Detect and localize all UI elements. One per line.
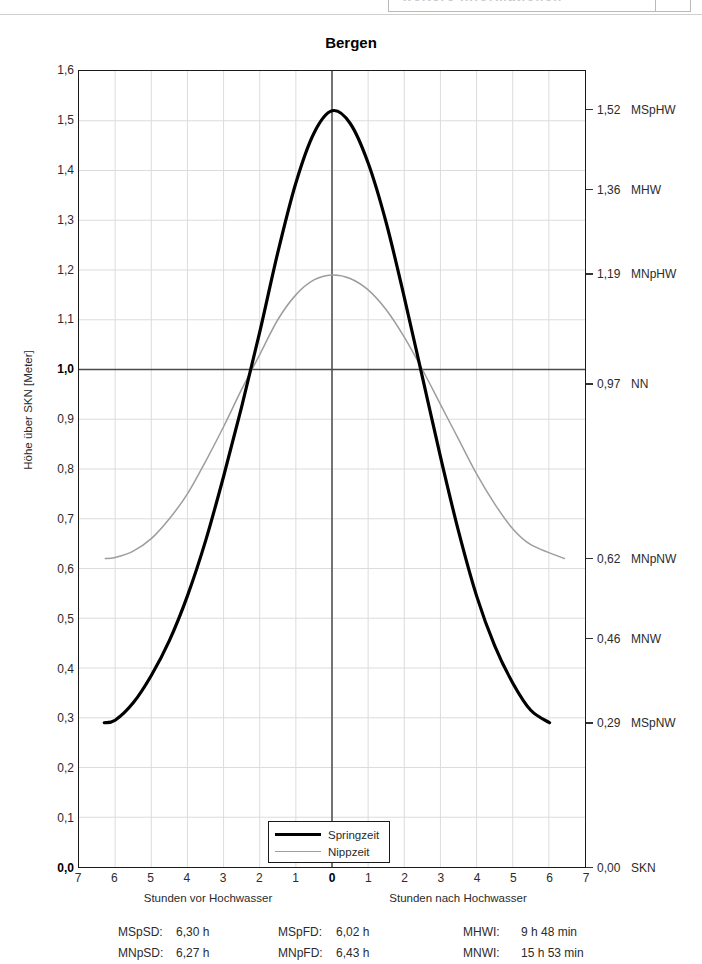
y-tick-0-2: 0,2 [30, 761, 74, 775]
legend-item-springzeit[interactable]: Springzeit [275, 827, 383, 842]
stat-value: 6,43 h [336, 946, 369, 960]
y-tick-0-1: 0,1 [30, 811, 74, 825]
y-tick-1-5: 1,5 [30, 113, 74, 127]
x-tick-7: 7 [576, 871, 596, 885]
reference-tick-icon [586, 109, 593, 110]
reference-value: 0,29 [597, 716, 620, 730]
stat-key: MNpSD: [118, 946, 176, 960]
y-tick-0-7: 0,7 [30, 512, 74, 526]
legend-item-nippzeit[interactable]: Nippzeit [275, 844, 383, 859]
chart-title: Bergen [0, 34, 702, 51]
stat-key: MNWI: [463, 946, 521, 960]
reference-tick-icon [586, 867, 593, 868]
header-fragment-label: weitere Informationen [402, 0, 562, 4]
tide-curves [79, 71, 585, 867]
x-tick-6: 6 [540, 871, 560, 885]
x-tick-3: 3 [431, 871, 451, 885]
reference-value: 0,46 [597, 632, 620, 646]
stats-row: MNpSD:6,27 hMNpFD:6,43 hMNWI:15 h 53 min [78, 946, 638, 964]
x-tick-minus7: 7 [68, 871, 88, 885]
stat-mspsd: MSpSD:6,30 h [118, 925, 209, 939]
reference-tick-icon [586, 383, 593, 384]
reference-name: SKN [631, 861, 656, 875]
y-tick-0-8: 0,8 [30, 462, 74, 476]
page-header-fragment: weitere Informationen [0, 0, 702, 14]
x-tick-2: 2 [395, 871, 415, 885]
stat-mspfd: MSpFD:6,02 h [278, 925, 369, 939]
x-tick-minus1: 1 [286, 871, 306, 885]
x-caption-after: Stunden nach Hochwasser [389, 892, 526, 904]
reference-tick-icon [586, 722, 593, 723]
reference-name: MSpNW [631, 716, 676, 730]
x-tick-4: 4 [467, 871, 487, 885]
y-tick-0-3: 0,3 [30, 711, 74, 725]
stat-mhwi: MHWI:9 h 48 min [463, 925, 577, 939]
x-tick-0: 0 [322, 871, 342, 885]
x-tick-5: 5 [503, 871, 523, 885]
reference-name: MNpNW [631, 552, 676, 566]
reference-name: MNpHW [631, 267, 676, 281]
reference-tick-icon [586, 273, 593, 274]
stat-key: MHWI: [463, 925, 521, 939]
stat-value: 9 h 48 min [521, 925, 577, 939]
x-axis-tick-labels: 765432101234567 [78, 871, 586, 887]
legend-label: Springzeit [328, 829, 379, 841]
y-tick-0-9: 0,9 [30, 412, 74, 426]
stat-mnpsd: MNpSD:6,27 h [118, 946, 209, 960]
x-caption-before: Stunden vor Hochwasser [144, 892, 272, 904]
header-divider [0, 14, 702, 15]
y-tick-1-0: 1,0 [30, 362, 74, 376]
stat-key: MNpFD: [278, 946, 336, 960]
chart-legend: SpringzeitNippzeit [268, 821, 390, 863]
x-tick-minus4: 4 [177, 871, 197, 885]
reference-name: MNW [631, 632, 661, 646]
header-button-box[interactable] [655, 0, 691, 12]
reference-value: 1,19 [597, 267, 620, 281]
reference-name: MSpHW [631, 103, 676, 117]
y-tick-0-4: 0,4 [30, 662, 74, 676]
stat-value: 6,02 h [336, 925, 369, 939]
stat-mnwi: MNWI:15 h 53 min [463, 946, 584, 960]
reference-tick-icon [586, 558, 593, 559]
reference-value: 0,97 [597, 377, 620, 391]
x-axis-captions: Stunden vor Hochwasser Stunden nach Hoch… [78, 892, 586, 908]
y-tick-0-5: 0,5 [30, 612, 74, 626]
reference-tick-icon [586, 638, 593, 639]
y-tick-1-4: 1,4 [30, 163, 74, 177]
y-tick-1-3: 1,3 [30, 213, 74, 227]
stat-key: MSpFD: [278, 925, 336, 939]
reference-value: 1,52 [597, 103, 620, 117]
reference-value: 0,62 [597, 552, 620, 566]
stat-value: 15 h 53 min [521, 946, 584, 960]
stat-value: 6,30 h [176, 925, 209, 939]
stat-key: MSpSD: [118, 925, 176, 939]
tidal-statistics-table: MSpSD:6,30 hMSpFD:6,02 hMHWI:9 h 48 minM… [78, 925, 638, 964]
reference-tick-icon [586, 189, 593, 190]
y-tick-1-1: 1,1 [30, 312, 74, 326]
x-tick-minus5: 5 [141, 871, 161, 885]
reference-name: MHW [631, 183, 661, 197]
stat-mnpfd: MNpFD:6,43 h [278, 946, 369, 960]
x-tick-minus2: 2 [249, 871, 269, 885]
y-tick-1-2: 1,2 [30, 263, 74, 277]
y-axis-title: Höhe über SKN [Meter] [22, 330, 34, 490]
y-tick-0-6: 0,6 [30, 562, 74, 576]
reference-level-labels: 1,52MSpHW1,36MHW1,19MNpHW0,97NN0,62MNpNW… [586, 70, 702, 868]
y-tick-1-6: 1,6 [30, 63, 74, 77]
reference-value: 1,36 [597, 183, 620, 197]
legend-label: Nippzeit [328, 846, 370, 858]
legend-line-icon [275, 851, 321, 852]
reference-name: NN [631, 377, 648, 391]
plot-area [78, 70, 586, 868]
legend-line-icon [275, 833, 321, 836]
x-tick-1: 1 [358, 871, 378, 885]
reference-value: 0,00 [597, 861, 620, 875]
x-tick-minus6: 6 [104, 871, 124, 885]
stats-row: MSpSD:6,30 hMSpFD:6,02 hMHWI:9 h 48 min [78, 925, 638, 943]
x-tick-minus3: 3 [213, 871, 233, 885]
stat-value: 6,27 h [176, 946, 209, 960]
